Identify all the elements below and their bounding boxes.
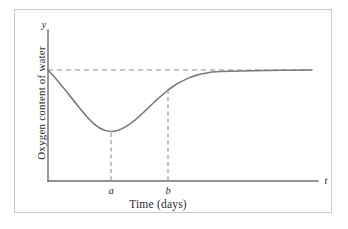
y-axis-title: Oxygen content of water <box>35 28 47 178</box>
figure-root: y t a b Time (days) Oxygen content of wa… <box>0 0 348 229</box>
plot-area: y t a b <box>0 0 348 229</box>
x-tick-label-b: b <box>165 185 170 196</box>
x-tick-label-a: a <box>108 185 113 196</box>
x-axis-variable-label: t <box>325 175 328 186</box>
oxygen-content-curve <box>48 70 312 132</box>
x-axis-title: Time (days) <box>48 198 268 210</box>
